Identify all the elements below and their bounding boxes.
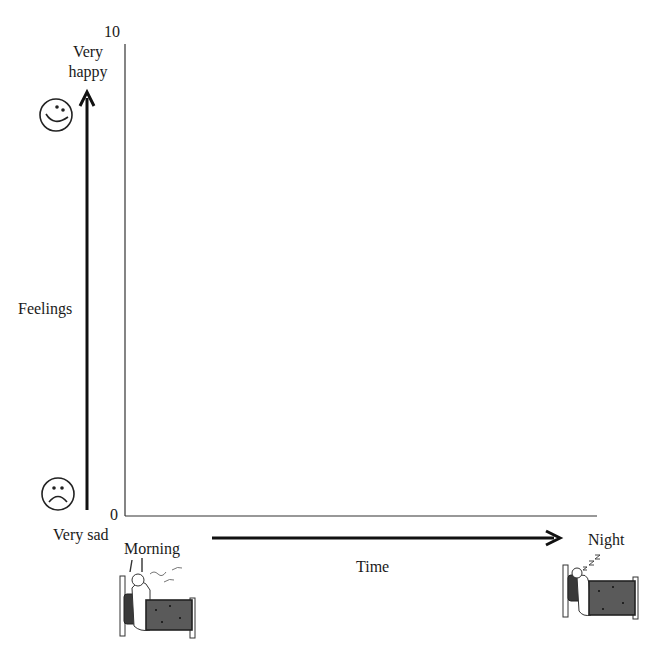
sleeping-in-bed-icon: [563, 555, 638, 619]
very-happy-label: Very happy: [58, 42, 118, 82]
graph-frame: [0, 0, 659, 663]
feelings-arrow: [80, 92, 94, 510]
very-happy-line1: Very: [58, 42, 118, 62]
y-axis-min-tick: 0: [110, 505, 118, 525]
sad-face-icon: [42, 478, 74, 510]
y-axis-label: Feelings: [18, 299, 72, 319]
very-happy-line2: happy: [58, 62, 118, 82]
x-axis-label: Time: [356, 557, 389, 577]
y-axis-max-tick: 10: [104, 22, 120, 42]
very-sad-label: Very sad: [53, 525, 109, 545]
time-arrow: [212, 531, 560, 545]
waking-up-in-bed-icon: [120, 558, 195, 638]
morning-label: Morning: [124, 539, 180, 559]
night-label: Night: [588, 530, 624, 550]
happy-face-icon: [40, 99, 72, 131]
